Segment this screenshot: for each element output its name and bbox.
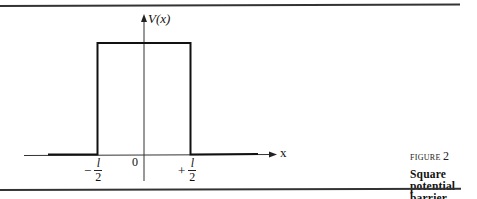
tick-denominator: 2 xyxy=(95,172,101,183)
figure-label: FIGURE 2 xyxy=(410,149,449,164)
barrier-plot xyxy=(0,0,477,199)
figure-caption: Square potential barrier. xyxy=(410,168,477,199)
tick-sign: + xyxy=(178,163,185,179)
y-axis-label: V(x) xyxy=(148,11,170,27)
tick-plus-l-over-2: + l 2 xyxy=(178,158,196,183)
y-axis-arrow-icon xyxy=(141,14,147,22)
x-axis-label: x xyxy=(280,145,287,161)
origin-label: 0 xyxy=(132,155,138,170)
tick-denominator: 2 xyxy=(189,172,195,183)
tick-numerator: l xyxy=(97,158,100,169)
tick-sign: − xyxy=(84,163,91,179)
figure-label-text: FIGURE xyxy=(410,153,441,162)
potential-barrier-curve xyxy=(48,43,258,155)
x-axis-arrow-icon xyxy=(269,152,277,158)
tick-numerator: l xyxy=(191,158,194,169)
figure-number: 2 xyxy=(443,149,449,163)
tick-minus-l-over-2: − l 2 xyxy=(84,158,102,183)
